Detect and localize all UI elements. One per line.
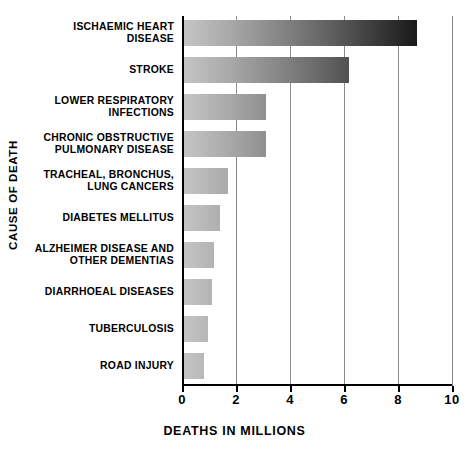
x-tick-label: 8 <box>394 392 402 407</box>
category-label-line: ALZHEIMER DISEASE AND <box>26 243 174 255</box>
bar <box>182 131 266 157</box>
category-label-line: TRACHEAL, BRONCHUS, <box>26 169 174 181</box>
category-label-line: CHRONIC OBSTRUCTIVE <box>26 132 174 144</box>
category-label: DIARRHOEAL DISEASES <box>26 286 174 298</box>
category-label: DIABETES MELLITUS <box>26 212 174 224</box>
category-label: ROAD INJURY <box>26 360 174 372</box>
category-label: ALZHEIMER DISEASE ANDOTHER DEMENTIAS <box>26 243 174 268</box>
category-label-line: PULMONARY DISEASE <box>26 144 174 156</box>
y-axis-title: CAUSE OF DEATH <box>0 0 26 390</box>
category-label-line: ROAD INJURY <box>26 360 174 372</box>
y-axis-category-labels: ISCHAEMIC HEARTDISEASESTROKELOWER RESPIR… <box>26 16 178 386</box>
category-label: CHRONIC OBSTRUCTIVEPULMONARY DISEASE <box>26 132 174 157</box>
bar <box>182 353 204 379</box>
category-label-line: INFECTIONS <box>26 107 174 119</box>
category-label-line: LUNG CANCERS <box>26 181 174 193</box>
x-axis-tick-labels: 0246810 <box>182 392 452 410</box>
category-label-line: TUBERCULOSIS <box>26 323 174 335</box>
bar <box>182 168 228 194</box>
bar <box>182 20 417 46</box>
bar-series <box>182 16 452 386</box>
x-axis-title: DEATHS IN MILLIONS <box>0 424 469 438</box>
category-label-line: LOWER RESPIRATORY <box>26 95 174 107</box>
x-tick-label: 10 <box>444 392 459 407</box>
bar <box>182 57 349 83</box>
bar-chart: CAUSE OF DEATH ISCHAEMIC HEARTDISEASESTR… <box>0 0 469 454</box>
category-label: TRACHEAL, BRONCHUS,LUNG CANCERS <box>26 169 174 194</box>
bar <box>182 242 214 268</box>
bar <box>182 279 212 305</box>
bar <box>182 205 220 231</box>
category-label: TUBERCULOSIS <box>26 323 174 335</box>
x-tick-label: 6 <box>340 392 348 407</box>
category-label: ISCHAEMIC HEARTDISEASE <box>26 21 174 46</box>
category-label: STROKE <box>26 64 174 76</box>
category-label: LOWER RESPIRATORYINFECTIONS <box>26 95 174 120</box>
gridline <box>452 16 453 386</box>
bar <box>182 316 208 342</box>
category-label-line: DIARRHOEAL DISEASES <box>26 286 174 298</box>
category-label-line: DISEASE <box>26 33 174 45</box>
category-label-line: STROKE <box>26 64 174 76</box>
category-label-line: DIABETES MELLITUS <box>26 212 174 224</box>
x-tick-label: 0 <box>178 392 186 407</box>
x-tick-label: 4 <box>286 392 294 407</box>
y-axis-line <box>182 16 184 386</box>
category-label-line: OTHER DEMENTIAS <box>26 255 174 267</box>
plot-area <box>182 16 452 386</box>
bar <box>182 94 266 120</box>
category-label-line: ISCHAEMIC HEART <box>26 21 174 33</box>
y-axis-title-text: CAUSE OF DEATH <box>7 140 19 250</box>
x-tick-label: 2 <box>232 392 240 407</box>
